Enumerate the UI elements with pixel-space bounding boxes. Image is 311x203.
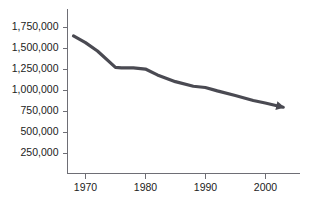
x-tick-label: 1970: [74, 181, 98, 193]
chart-axes: [68, 9, 301, 174]
data-line-series-0: [73, 36, 283, 107]
y-tick-label: 750,000: [21, 104, 59, 116]
y-tick-label: 1,000,000: [12, 83, 59, 95]
y-tick-marks: [63, 28, 68, 154]
y-tick-label: 1,750,000: [12, 20, 59, 32]
x-tick-label: 1980: [134, 181, 158, 193]
x-tick-marks: [86, 174, 266, 179]
y-tick-label: 1,500,000: [12, 41, 59, 53]
y-tick-label: 250,000: [21, 146, 59, 158]
y-axis-tick-labels: 250,000500,000750,0001,000,0001,250,0001…: [12, 20, 59, 158]
data-series-group: [73, 36, 284, 110]
line-chart: 250,000500,000750,0001,000,0001,250,0001…: [0, 0, 311, 203]
x-tick-label: 1990: [194, 181, 218, 193]
chart-canvas: 250,000500,000750,0001,000,0001,250,0001…: [0, 0, 311, 203]
y-tick-label: 500,000: [21, 125, 59, 137]
x-axis-tick-labels: 1970198019902000: [74, 181, 278, 193]
y-tick-label: 1,250,000: [12, 62, 59, 74]
x-tick-label: 2000: [254, 181, 278, 193]
